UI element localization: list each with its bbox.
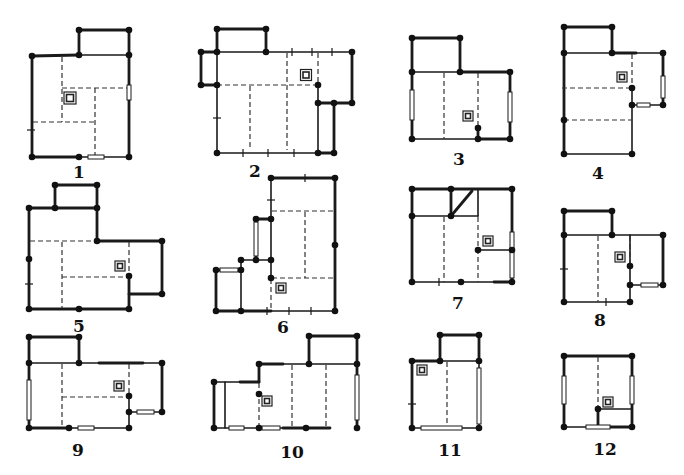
hearth-icon: [483, 236, 493, 246]
plan-number-label: 4: [592, 163, 604, 183]
hearth-inner-icon: [303, 72, 309, 78]
post-icon: [126, 27, 133, 34]
post-icon: [476, 332, 483, 339]
post-icon: [238, 257, 245, 264]
window-icon: [421, 426, 462, 430]
post-icon: [211, 425, 218, 432]
post-icon: [29, 154, 36, 161]
post-icon: [627, 282, 634, 289]
post-icon: [198, 82, 205, 89]
post-icon: [76, 154, 83, 161]
hearth-inner-icon: [606, 400, 611, 405]
post-icon: [263, 49, 270, 56]
post-icon: [475, 247, 482, 254]
window-icon: [220, 268, 238, 272]
post-icon: [238, 308, 245, 315]
post-icon: [331, 100, 338, 107]
post-icon: [627, 299, 634, 306]
post-icon: [315, 100, 322, 107]
window-icon: [508, 92, 512, 122]
post-icon: [94, 238, 101, 245]
hearth-inner-icon: [486, 239, 491, 244]
post-icon: [409, 136, 416, 143]
floor-plan-3: 3: [409, 35, 514, 169]
post-icon: [609, 208, 616, 215]
window-icon: [477, 368, 481, 424]
window-icon: [254, 222, 258, 256]
post-icon: [126, 306, 133, 313]
floor-plan-5: 5: [25, 182, 165, 336]
plan-number-label: 10: [280, 442, 304, 462]
post-icon: [629, 151, 636, 158]
hearth-inner-icon: [279, 286, 284, 291]
post-icon: [29, 53, 36, 60]
plan-number-label: 8: [594, 310, 606, 330]
post-icon: [332, 308, 339, 315]
post-icon: [159, 291, 166, 298]
post-icon: [159, 409, 166, 416]
hearth-icon: [417, 365, 427, 375]
post-icon: [52, 205, 59, 212]
post-icon: [561, 50, 568, 57]
post-icon: [437, 332, 444, 339]
post-icon: [214, 150, 221, 157]
post-icon: [509, 279, 516, 286]
post-icon: [629, 424, 636, 431]
post-icon: [507, 136, 514, 143]
window-icon: [262, 426, 280, 430]
window-icon: [410, 90, 414, 120]
post-icon: [126, 273, 133, 280]
post-icon: [561, 117, 568, 124]
post-icon: [211, 379, 218, 386]
post-icon: [561, 151, 568, 158]
post-icon: [126, 154, 133, 161]
post-icon: [315, 82, 322, 89]
post-icon: [609, 232, 616, 239]
post-icon: [509, 186, 516, 193]
exterior-wall: [451, 191, 472, 216]
post-icon: [354, 361, 361, 368]
post-icon: [475, 136, 482, 143]
post-icon: [26, 360, 33, 367]
plan-number-label: 11: [438, 440, 462, 460]
post-icon: [126, 409, 133, 416]
post-icon: [214, 26, 221, 33]
post-icon: [306, 361, 313, 368]
exterior-wall: [32, 55, 79, 56]
floor-plan-2: 2: [198, 26, 356, 181]
post-icon: [253, 257, 260, 264]
plan-number-label: 9: [72, 440, 84, 460]
post-icon: [595, 406, 602, 413]
post-icon: [256, 361, 263, 368]
post-icon: [263, 26, 270, 33]
post-icon: [409, 35, 416, 42]
plan-number-label: 1: [73, 162, 85, 182]
post-icon: [66, 425, 73, 432]
window-icon: [355, 375, 359, 420]
post-icon: [256, 425, 263, 432]
window-icon: [127, 85, 131, 100]
floor-plan-6: 6: [213, 174, 339, 337]
post-icon: [475, 125, 482, 132]
floor-plan-4: 4: [561, 24, 667, 183]
post-icon: [561, 424, 568, 431]
post-icon: [213, 308, 220, 315]
floor-plan-10: 10: [211, 333, 361, 462]
post-icon: [331, 150, 338, 157]
post-icon: [332, 242, 339, 249]
post-icon: [76, 27, 83, 34]
post-icon: [457, 69, 464, 76]
post-icon: [52, 182, 59, 189]
floor-plans-figure: 123456789101112: [0, 0, 684, 475]
post-icon: [94, 182, 101, 189]
post-icon: [214, 82, 221, 89]
post-icon: [627, 263, 634, 270]
post-icon: [268, 257, 275, 264]
post-icon: [448, 213, 455, 220]
post-icon: [409, 358, 416, 365]
hearth-inner-icon: [265, 399, 270, 404]
hearth-inner-icon: [420, 368, 425, 373]
window-icon: [137, 410, 154, 414]
post-icon: [315, 150, 322, 157]
post-icon: [76, 334, 83, 341]
